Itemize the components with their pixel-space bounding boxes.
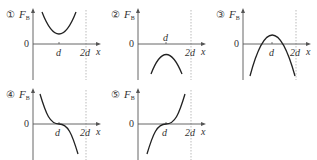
origin-label: 0 [24,119,29,129]
origin-label: 0 [129,39,134,49]
panel-number: ③ [216,10,225,20]
tick-d: d [162,128,167,138]
tick-d: d [163,33,168,43]
y-axis-label: FB [124,9,135,21]
y-axis-arrow-icon [241,8,245,13]
tick-d: d [56,48,61,58]
graph-3-plot [210,0,315,80]
graph-panel-5: ⑤ FB 0 d 2d x [105,80,210,160]
tick-2d: 2d [185,48,195,58]
graph-panel-3: ③ FB 0 d 2d x [210,0,315,80]
x-axis-label: x [201,127,205,137]
graph-1-plot [0,0,105,80]
y-axis-arrow-icon [31,88,35,93]
y-axis-label: FB [19,89,30,101]
x-axis-label: x [306,47,310,57]
graph-panel-1: ① FB 0 d 2d x [0,0,105,80]
graph-5-plot [105,80,210,160]
origin-label: 0 [234,39,239,49]
tick-2d: 2d [290,48,300,58]
x-axis-label: x [201,47,205,57]
panel-number: ① [6,10,15,20]
y-axis-arrow-icon [31,8,35,13]
tick-2d: 2d [185,128,195,138]
curve-2 [151,55,182,75]
y-axis-label: FB [19,9,30,21]
graph-2-plot [105,0,210,80]
curve-1 [42,12,76,34]
y-axis-arrow-icon [136,88,140,93]
graph-panel-2: ② FB 0 d 2d x [105,0,210,80]
x-axis-label: x [96,127,100,137]
panel-number: ⑤ [111,90,120,100]
tick-d: d [55,128,60,138]
tick-d: d [269,48,274,58]
x-axis-label: x [96,47,100,57]
y-axis-label: FB [229,9,240,21]
origin-label: 0 [129,119,134,129]
graph-4-plot [0,80,105,160]
graph-panel-4: ④ FB 0 d 2d x [0,80,105,160]
panel-number: ④ [6,90,15,100]
origin-label: 0 [24,39,29,49]
y-axis-label: FB [124,89,135,101]
tick-2d: 2d [80,48,90,58]
y-axis-arrow-icon [136,8,140,13]
tick-2d: 2d [80,128,90,138]
panel-number: ② [111,10,120,20]
